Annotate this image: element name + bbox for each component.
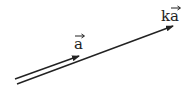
vector-a-arrow: [15, 56, 79, 79]
vector-a-symbol: a: [74, 37, 83, 52]
diagram-canvas: a ka: [0, 0, 196, 99]
vector-arrow-icon: [75, 33, 85, 39]
vector-ka-label: ka: [161, 9, 179, 24]
vector-ka-arrow: [17, 26, 173, 84]
vector-a-label: a: [74, 37, 83, 52]
vector-ka-symbol: a: [170, 9, 179, 24]
vector-ka-prefix: k: [161, 7, 170, 25]
vector-arrow-icon: [171, 5, 181, 11]
